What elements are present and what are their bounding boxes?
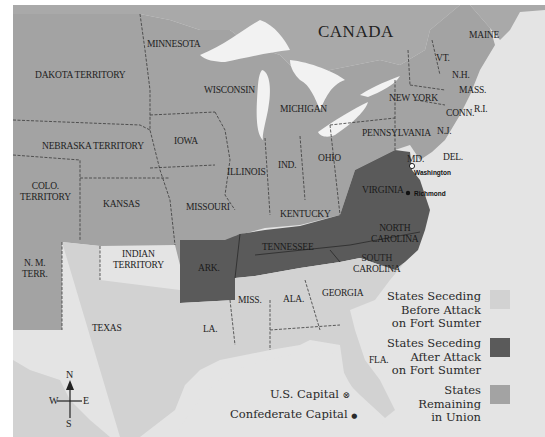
- legend-after-line2: After Attack: [387, 351, 481, 365]
- compass-south: S: [66, 418, 72, 429]
- label-new-mexico-territory: N. M.TERR.: [22, 258, 48, 280]
- legend-swatch-after: [490, 338, 510, 357]
- label-connecticut: CONN.: [446, 108, 474, 119]
- label-nc-line1: NORTH: [379, 223, 410, 233]
- label-wisconsin: WISCONSIN: [204, 85, 255, 96]
- compass-north: N: [66, 369, 73, 380]
- label-colorado-line2: TERRITORY: [20, 192, 71, 202]
- label-nc-line2: CAROLINA: [371, 234, 418, 244]
- label-illinois: ILLINOIS: [227, 167, 266, 178]
- label-north-carolina: NORTHCAROLINA: [371, 223, 418, 245]
- label-louisiana: LA.: [203, 324, 217, 335]
- label-richmond: Richmond: [414, 190, 446, 197]
- label-indian-territory: INDIANTERRITORY: [113, 249, 164, 271]
- us-capital-label: U.S. Capital: [270, 387, 339, 401]
- label-florida: FLA.: [369, 355, 389, 366]
- compass-west: W: [49, 395, 58, 406]
- label-colorado-territory: COLO.TERRITORY: [20, 181, 71, 203]
- legend-after-line1: States Seceding: [387, 337, 481, 351]
- legend-union-line2: Remaining: [418, 398, 481, 412]
- label-nm-line2: TERR.: [22, 269, 48, 279]
- legend-item-union: States Remaining in Union: [418, 384, 481, 425]
- label-colorado-line1: COLO.: [32, 181, 59, 191]
- label-ohio: OHIO: [318, 153, 341, 164]
- legend-item-after: States Seceding After Attack on Fort Sum…: [387, 337, 481, 378]
- legend-union-line1: States: [418, 384, 481, 398]
- label-new-jersey: N.J.: [437, 126, 452, 137]
- label-kansas: KANSAS: [103, 199, 140, 210]
- label-virginia: VIRGINIA: [362, 185, 404, 196]
- confederate-capital-icon: ●: [351, 412, 357, 420]
- label-indiana: IND.: [278, 160, 296, 171]
- label-maryland: MD.: [407, 154, 424, 165]
- compass-east: E: [83, 395, 89, 406]
- label-nebraska-territory: NEBRASKA TERRITORY: [42, 141, 144, 152]
- label-texas: TEXAS: [92, 323, 122, 334]
- label-tennessee: TENNESSEE: [262, 242, 314, 253]
- label-washington: Washington: [414, 169, 451, 176]
- legend-us-capital: U.S. Capital ⊗: [270, 387, 350, 401]
- label-alabama: ALA.: [283, 294, 304, 305]
- legend-before-line2: Before Attack: [387, 304, 481, 318]
- legend-swatch-before: [490, 290, 510, 309]
- label-georgia: GEORGIA: [322, 288, 363, 299]
- label-dakota-territory: DAKOTA TERRITORY: [35, 70, 125, 81]
- legend-union-line3: in Union: [418, 411, 481, 425]
- label-indian-line1: INDIAN: [122, 249, 155, 259]
- legend-swatch-union: [490, 385, 510, 404]
- label-delaware: DEL.: [443, 152, 463, 163]
- label-kentucky: KENTUCKY: [280, 209, 331, 220]
- confederate-capital-label: Confederate Capital: [230, 407, 348, 421]
- label-massachusetts: MASS.: [459, 85, 486, 96]
- label-south-carolina: SOUTHCAROLINA: [353, 253, 400, 275]
- label-sc-line1: SOUTH: [361, 253, 392, 263]
- label-rhode-island: R.I.: [474, 104, 487, 115]
- richmond-capital-marker: [406, 191, 410, 195]
- label-sc-line2: CAROLINA: [353, 264, 400, 274]
- canada-label: CANADA: [318, 22, 394, 42]
- legend-before-line3: on Fort Sumter: [387, 317, 481, 331]
- label-new-york: NEW YORK: [389, 93, 438, 104]
- label-mississippi: MISS.: [238, 295, 262, 306]
- label-iowa: IOWA: [174, 136, 198, 147]
- label-missouri: MISSOURI: [186, 202, 230, 213]
- label-vermont: VT.: [436, 53, 450, 64]
- legend-after-line3: on Fort Sumter: [387, 364, 481, 378]
- legend-confederate-capital: Confederate Capital ●: [230, 407, 357, 421]
- us-capital-icon: ⊗: [343, 390, 351, 400]
- legend-before-line1: States Seceding: [387, 290, 481, 304]
- label-maine: MAINE: [469, 30, 499, 41]
- label-arkansas: ARK.: [198, 263, 220, 274]
- label-new-hampshire: N.H.: [452, 70, 470, 81]
- label-minnesota: MINNESOTA: [147, 39, 200, 50]
- label-pennsylvania: PENNSYLVANIA: [362, 128, 431, 139]
- label-nm-line1: N. M.: [24, 258, 45, 268]
- legend-item-before: States Seceding Before Attack on Fort Su…: [387, 290, 481, 331]
- label-indian-line2: TERRITORY: [113, 260, 164, 270]
- label-michigan: MICHIGAN: [280, 104, 327, 115]
